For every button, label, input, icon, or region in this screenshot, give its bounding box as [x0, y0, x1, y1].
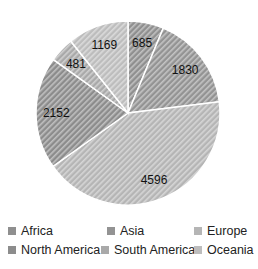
legend-label: Oceania: [207, 243, 254, 257]
data-label: 4596: [141, 173, 168, 187]
data-label: 2152: [43, 106, 70, 120]
legend-swatch-icon: [194, 227, 202, 235]
legend-item-europe: Europe: [194, 224, 247, 238]
legend-item-north-america: North America: [8, 243, 100, 257]
legend-swatch-icon: [107, 227, 115, 235]
legend-label: Europe: [207, 224, 247, 238]
legend-swatch-icon: [101, 246, 109, 254]
legend-label: North America: [21, 243, 100, 257]
legend-label: Asia: [120, 224, 144, 238]
legend-swatch-icon: [194, 246, 202, 254]
pie-chart: 6851830459621524811169: [0, 0, 258, 220]
legend-item-asia: Asia: [107, 224, 144, 238]
legend-label: South America: [114, 243, 195, 257]
legend-swatch-icon: [8, 246, 16, 254]
data-label: 1169: [91, 38, 117, 52]
data-label: 685: [132, 36, 152, 50]
data-label: 481: [66, 57, 86, 71]
legend-item-africa: Africa: [8, 224, 53, 238]
legend-swatch-icon: [8, 227, 16, 235]
legend-item-oceania: Oceania: [194, 243, 254, 257]
legend-item-south-america: South America: [101, 243, 195, 257]
legend-label: Africa: [21, 224, 53, 238]
data-label: 1830: [172, 63, 199, 77]
